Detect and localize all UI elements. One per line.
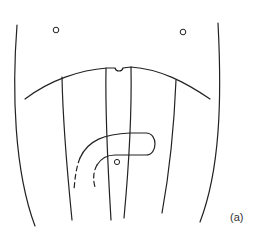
transverse-arc [25, 67, 210, 99]
small-circle-center [114, 159, 119, 164]
longitudinal-line-2 [106, 68, 111, 220]
longitudinal-line-1 [62, 77, 72, 220]
small-circle-upper-left [53, 27, 59, 33]
line-diagram [0, 0, 257, 240]
dashed-continuation-inner [94, 165, 97, 187]
left-outer-curve [15, 25, 35, 226]
panel-label: (a) [230, 211, 243, 223]
small-circle-upper-right [180, 29, 186, 35]
right-outer-curve [200, 23, 220, 222]
dashed-continuation-outer [74, 158, 80, 190]
longitudinal-line-4 [162, 80, 176, 213]
longitudinal-line-3 [124, 67, 131, 218]
